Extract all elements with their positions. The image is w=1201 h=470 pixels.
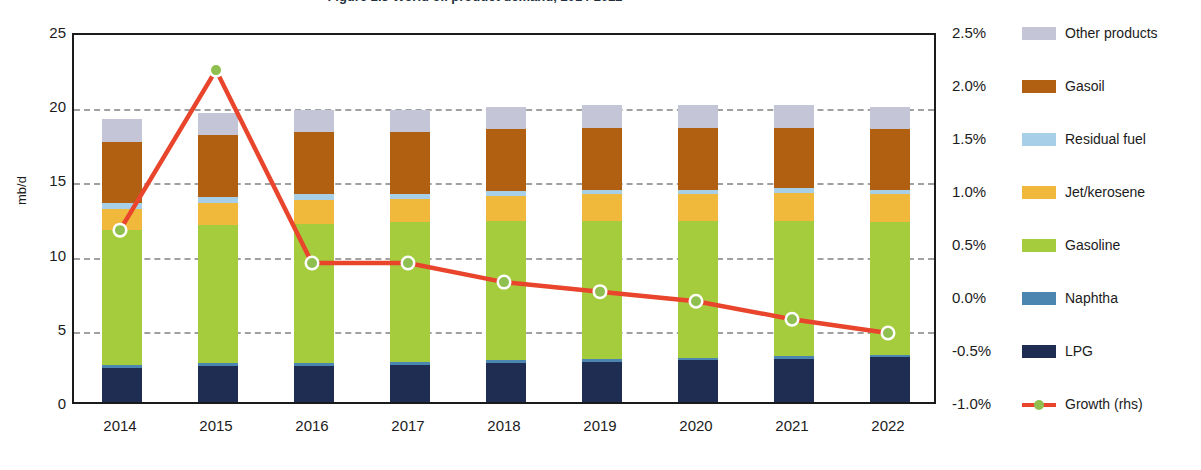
bar-segment-gasoline bbox=[774, 221, 814, 356]
bar-segment-gasoil bbox=[582, 128, 622, 190]
bar-segment-gasoil bbox=[102, 142, 142, 203]
legend-swatch-icon bbox=[1022, 27, 1056, 40]
x-tick-label-2018: 2018 bbox=[467, 417, 541, 434]
bar-2015[interactable] bbox=[198, 113, 238, 402]
x-tick-label-2020: 2020 bbox=[659, 417, 733, 434]
bar-segment-gasoil bbox=[678, 128, 718, 190]
bar-segment-gasoil bbox=[870, 129, 910, 190]
bar-segment-jet-kerosene bbox=[102, 209, 142, 230]
bar-2021[interactable] bbox=[774, 105, 814, 402]
y2-tick-label: 0.5% bbox=[952, 237, 998, 252]
x-tick-label-2014: 2014 bbox=[83, 417, 157, 434]
legend-swatch-icon bbox=[1022, 292, 1056, 305]
bar-segment-gasoline bbox=[486, 221, 526, 360]
bar-2019[interactable] bbox=[582, 105, 622, 402]
bar-segment-gasoline bbox=[582, 221, 622, 359]
legend-label: Naphtha bbox=[1065, 290, 1118, 306]
legend-item-jet-kerosene[interactable]: Jet/kerosene bbox=[1022, 183, 1145, 201]
x-tick-label-2022: 2022 bbox=[851, 417, 925, 434]
y-tick-label: 15 bbox=[26, 173, 66, 188]
bar-segment-lpg bbox=[582, 362, 622, 402]
y2-tick-label: -0.5% bbox=[952, 343, 998, 358]
legend-item-residual-fuel[interactable]: Residual fuel bbox=[1022, 130, 1146, 148]
bar-segment-other-products bbox=[102, 119, 142, 143]
legend-label: Gasoline bbox=[1065, 237, 1120, 253]
legend-label: LPG bbox=[1065, 343, 1093, 359]
bar-2016[interactable] bbox=[294, 110, 334, 402]
bar-segment-gasoline bbox=[390, 222, 430, 361]
bar-segment-gasoil bbox=[294, 132, 334, 194]
legend-item-growth-rhs[interactable]: Growth (rhs) bbox=[1022, 395, 1143, 413]
legend-swatch-icon bbox=[1022, 186, 1056, 199]
bar-segment-lpg bbox=[198, 366, 238, 402]
bar-segment-lpg bbox=[870, 357, 910, 402]
bar-segment-lpg bbox=[390, 365, 430, 402]
bar-segment-jet-kerosene bbox=[582, 194, 622, 221]
bar-segment-other-products bbox=[294, 110, 334, 132]
bar-segment-jet-kerosene bbox=[678, 194, 718, 221]
legend-item-other-products[interactable]: Other products bbox=[1022, 24, 1158, 42]
bar-segment-lpg bbox=[486, 363, 526, 402]
chart-title: Figure 2.3 World oil product demand, 201… bbox=[0, 0, 950, 4]
x-tick-label-2021: 2021 bbox=[755, 417, 829, 434]
bar-segment-gasoil bbox=[198, 135, 238, 197]
bar-segment-other-products bbox=[198, 113, 238, 135]
y-tick-label: 0 bbox=[26, 396, 66, 411]
bar-segment-lpg bbox=[678, 360, 718, 402]
bar-segment-jet-kerosene bbox=[198, 203, 238, 225]
bar-2018[interactable] bbox=[486, 107, 526, 402]
legend-swatch-icon bbox=[1022, 239, 1056, 252]
bar-segment-other-products bbox=[390, 110, 430, 132]
y2-tick-label: 2.0% bbox=[952, 78, 998, 93]
x-tick-label-2019: 2019 bbox=[563, 417, 637, 434]
legend-swatch-icon bbox=[1022, 80, 1056, 93]
bar-segment-jet-kerosene bbox=[294, 200, 334, 224]
y2-tick-label: 1.0% bbox=[952, 184, 998, 199]
y2-tick-label: 0.0% bbox=[952, 290, 998, 305]
bar-segment-gasoline bbox=[294, 224, 334, 363]
bar-segment-jet-kerosene bbox=[390, 199, 430, 223]
legend-swatch-icon bbox=[1022, 345, 1056, 358]
bar-2020[interactable] bbox=[678, 105, 718, 402]
y-tick-label: 25 bbox=[26, 25, 66, 40]
legend-label: Other products bbox=[1065, 25, 1158, 41]
bar-segment-jet-kerosene bbox=[486, 196, 526, 221]
y2-tick-label: 1.5% bbox=[952, 131, 998, 146]
legend-item-lpg[interactable]: LPG bbox=[1022, 342, 1093, 360]
bar-2022[interactable] bbox=[870, 107, 910, 402]
bar-segment-other-products bbox=[774, 105, 814, 127]
legend-line-marker-icon bbox=[1022, 398, 1056, 411]
plot-area bbox=[72, 33, 936, 404]
bar-segment-lpg bbox=[294, 366, 334, 402]
bar-segment-gasoline bbox=[102, 230, 142, 365]
legend-label: Gasoil bbox=[1065, 78, 1105, 94]
legend-item-gasoil[interactable]: Gasoil bbox=[1022, 77, 1105, 95]
y2-tick-label: -1.0% bbox=[952, 396, 998, 411]
bar-segment-other-products bbox=[486, 107, 526, 129]
x-tick-label-2016: 2016 bbox=[275, 417, 349, 434]
bar-segment-gasoline bbox=[678, 221, 718, 358]
legend-label: Residual fuel bbox=[1065, 131, 1146, 147]
bar-segment-gasoline bbox=[198, 225, 238, 363]
bar-2017[interactable] bbox=[390, 110, 430, 402]
y-tick-label: 5 bbox=[26, 322, 66, 337]
bar-segment-other-products bbox=[870, 107, 910, 129]
bar-segment-jet-kerosene bbox=[870, 194, 910, 222]
bar-segment-lpg bbox=[774, 359, 814, 402]
legend-item-naphtha[interactable]: Naphtha bbox=[1022, 289, 1118, 307]
bar-segment-gasoil bbox=[486, 129, 526, 191]
bar-segment-gasoline bbox=[870, 222, 910, 354]
x-tick-label-2015: 2015 bbox=[179, 417, 253, 434]
legend-swatch-icon bbox=[1022, 133, 1056, 146]
bar-segment-gasoil bbox=[774, 128, 814, 189]
legend-label: Growth (rhs) bbox=[1065, 396, 1143, 412]
bar-segment-jet-kerosene bbox=[774, 193, 814, 221]
y2-tick-label: 2.5% bbox=[952, 25, 998, 40]
legend-item-gasoline[interactable]: Gasoline bbox=[1022, 236, 1120, 254]
y-tick-label: 10 bbox=[26, 248, 66, 263]
y-tick-label: 20 bbox=[26, 99, 66, 114]
bar-segment-lpg bbox=[102, 368, 142, 402]
bar-segment-gasoil bbox=[390, 132, 430, 194]
bar-segment-other-products bbox=[582, 105, 622, 127]
bar-2014[interactable] bbox=[102, 119, 142, 402]
